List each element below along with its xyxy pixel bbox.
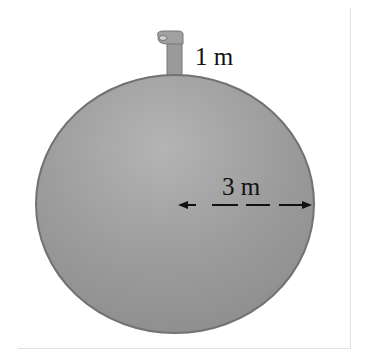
tank-figure (0, 0, 368, 359)
sphere-tank (36, 75, 314, 333)
radius-label: 3 m (222, 174, 260, 199)
pipe-outlet (158, 31, 184, 80)
pipe-height-label: 1 m (195, 44, 233, 69)
